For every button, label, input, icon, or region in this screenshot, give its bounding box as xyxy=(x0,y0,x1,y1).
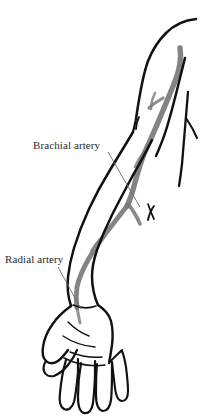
finger-middle xyxy=(78,361,95,413)
ulnar-artery-stub xyxy=(128,204,140,224)
palm-crease-thenar xyxy=(68,322,89,336)
leader-line-group xyxy=(58,152,140,309)
radial-artery-wrist xyxy=(77,307,80,323)
arm-posterior-contour xyxy=(179,92,188,186)
hand-outer-contour xyxy=(98,305,113,363)
label-radial-artery: Radial artery xyxy=(5,253,63,266)
figure-root: Brachial artery Radial artery xyxy=(0,0,208,420)
arm-anatomy-illustration xyxy=(0,0,208,420)
arm-posterior-fork xyxy=(186,118,197,138)
hand-upper-contour xyxy=(43,306,71,363)
upper-arm-inner-contour xyxy=(156,58,185,156)
finger-index xyxy=(60,359,78,410)
finger-ring xyxy=(96,362,112,411)
palm-crease-mid xyxy=(63,336,95,347)
label-brachial-artery: Brachial artery xyxy=(33,139,100,152)
